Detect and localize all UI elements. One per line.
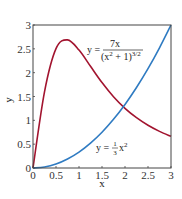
y-tick-label: 1.5 — [17, 91, 31, 103]
y-axis-label: y — [2, 97, 14, 103]
y-tick-label: 2.5 — [17, 43, 31, 55]
y-tick-label: 3 — [26, 19, 32, 31]
y-tick-label: 0.5 — [17, 138, 31, 150]
annotation-numerator: 7x — [110, 38, 120, 49]
x-axis-label: x — [99, 177, 105, 189]
x-tick-label: 3 — [168, 169, 174, 181]
annotation-y-equals: y = — [87, 44, 101, 55]
blue-curve-annotation: y = 1 3 x2 — [96, 140, 128, 157]
fraction-denominator: 3 — [113, 149, 117, 157]
red-curve-annotation: y = 7x (x2 + 1)3/2 — [87, 38, 143, 63]
x-tick-label: 2.5 — [141, 169, 155, 181]
annotation-x-squared: x2 — [119, 141, 128, 153]
y-tick-label: 0 — [26, 162, 32, 174]
line-chart: 00.511.522.53 00.511.522.53 x y y = 7x (… — [0, 0, 182, 199]
x-tick-label: 2 — [122, 169, 128, 181]
x-tick-label: 0.5 — [49, 169, 63, 181]
y-tick-label: 2 — [26, 67, 32, 79]
fraction-numerator: 1 — [113, 140, 117, 148]
y-tick-label: 1 — [26, 114, 32, 126]
annotation-y-equals-2: y = — [96, 142, 110, 153]
x-tick-label: 0 — [30, 169, 36, 181]
annotation-denominator: (x2 + 1)3/2 — [101, 50, 141, 63]
y-axis-ticks: 00.511.522.53 — [17, 19, 35, 174]
x-tick-label: 1 — [76, 169, 82, 181]
